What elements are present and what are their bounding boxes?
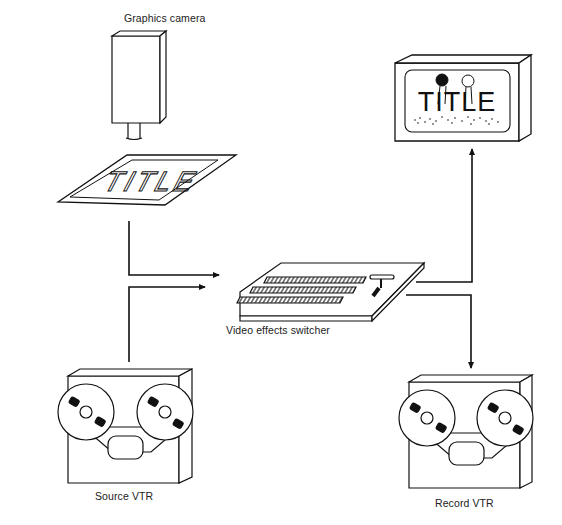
video-effects-switcher-icon [237, 263, 424, 321]
video-effects-switcher-label: Video effects switcher [226, 324, 330, 336]
graphics-camera-label: Graphics camera [124, 12, 205, 24]
graphics-camera-icon [112, 31, 166, 140]
monitor-icon: TITLE [395, 55, 531, 141]
monitor-title-text: TITLE [418, 87, 497, 117]
diagram-canvas: TITLE [0, 0, 562, 525]
source-vtr-icon [58, 369, 193, 483]
source-vtr-label: Source VTR [95, 490, 153, 502]
title-card-text: TITLE [100, 166, 201, 197]
record-vtr-label: Record VTR [435, 497, 494, 509]
edge-switcher-to-record-vtr [406, 295, 471, 368]
record-vtr-icon [399, 375, 533, 488]
title-card-icon: TITLE [58, 155, 236, 205]
edge-source-vtr-to-switcher [129, 287, 205, 362]
edge-title-to-switcher [129, 221, 219, 275]
